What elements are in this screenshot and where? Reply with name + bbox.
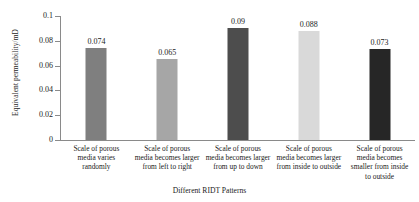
y-axis-tick [55, 41, 60, 42]
x-axis-title: Different RIDT Patterns [0, 186, 419, 195]
y-axis-tick-label: 0.02 [13, 111, 53, 119]
x-axis-category-label: Scale of porous media becomes smaller fr… [344, 144, 415, 181]
y-axis-tick [55, 90, 60, 91]
x-axis-category-label: Scale of porous media becomes larger fro… [203, 144, 274, 172]
x-axis-category-label: Scale of porous media becomes larger fro… [273, 144, 344, 172]
y-axis-title: Equivalent permeability/mD [11, 3, 20, 143]
bar [86, 48, 107, 140]
x-axis-line [60, 140, 415, 141]
bar [227, 28, 248, 140]
bar-group: 0.088 [273, 16, 344, 140]
y-axis-tick-label: 0 [13, 136, 53, 144]
bar-group: 0.073 [344, 16, 415, 140]
bar-group: 0.09 [203, 16, 274, 140]
bar-value-label: 0.074 [87, 37, 105, 46]
bar-value-label: 0.088 [300, 20, 318, 29]
bar-chart: Equivalent permeability/mD 00.020.040.06… [0, 0, 419, 202]
bar-group: 0.074 [61, 16, 132, 140]
y-axis-tick [55, 66, 60, 67]
plot-area: 0.0740.0650.090.0880.073 [61, 16, 415, 140]
bar [298, 31, 319, 140]
x-axis-category-labels: Scale of porous media varies randomlySca… [61, 144, 415, 184]
bar [369, 49, 390, 140]
y-axis-tick-label: 0.1 [13, 12, 53, 20]
bar [157, 59, 178, 140]
y-axis-tick-label: 0.06 [13, 62, 53, 70]
y-axis-tick [55, 115, 60, 116]
bar-value-label: 0.09 [231, 17, 245, 26]
x-axis-category-label: Scale of porous media varies randomly [61, 144, 132, 172]
bar-value-label: 0.073 [371, 38, 389, 47]
bar-group: 0.065 [132, 16, 203, 140]
y-axis-tick-label: 0.04 [13, 86, 53, 94]
y-axis-tick-label: 0.08 [13, 37, 53, 45]
x-axis-category-label: Scale of porous media becomes larger fro… [132, 144, 203, 172]
y-axis-tick [55, 16, 60, 17]
bar-value-label: 0.065 [158, 48, 176, 57]
y-axis-tick [55, 140, 60, 141]
